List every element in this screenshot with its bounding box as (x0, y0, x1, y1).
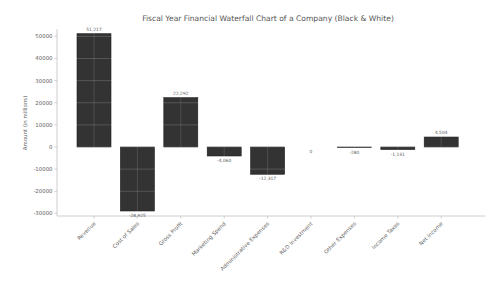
bar-value-label: -4,060 (217, 158, 231, 163)
x-tick-label-administrative-expenses: Administrative Expenses (219, 220, 271, 272)
bar-value-label: -1,131 (391, 152, 405, 157)
x-tick-label-other-expenses: Other Expenses (323, 220, 358, 255)
x-tick-label-cost-of-sales: Cost of Sales (111, 220, 140, 249)
y-tick-label: 40000 (35, 55, 53, 61)
y-tick-label: -10000 (33, 166, 53, 172)
bar-value-label: -280 (349, 150, 359, 155)
y-axis: 50000400003000020000100000-10000-20000-3… (33, 33, 57, 216)
bar-value-label: -12,317 (259, 176, 276, 181)
y-axis-label: Amount (in millions) (22, 96, 28, 151)
bar-value-label: 4,504 (435, 130, 448, 135)
x-axis: RevenueCost of SalesGross ProfitMarketin… (76, 216, 445, 273)
x-tick-label-r-d-investment: R&D Investment (278, 220, 314, 256)
y-tick-label: 30000 (35, 78, 53, 84)
y-tick-label: 10000 (35, 122, 53, 128)
y-tick-label: 20000 (35, 100, 53, 106)
bar-value-label: -28,925 (129, 213, 146, 218)
x-tick-label-revenue: Revenue (76, 220, 97, 241)
x-tick-label-marketing-spend: Marketing Spend (190, 220, 227, 257)
x-tick-label-gross-profit: Gross Profit (157, 220, 183, 246)
y-tick-label: -30000 (33, 210, 53, 216)
figure: Fiscal Year Financial Waterfall Chart of… (0, 0, 499, 283)
x-tick-label-net-income: Net Income (418, 220, 445, 247)
y-tick-label: -20000 (33, 188, 53, 194)
chart-title: Fiscal Year Financial Waterfall Chart of… (142, 14, 394, 23)
y-tick-label: 50000 (35, 33, 53, 39)
bar-value-label: 0 (310, 149, 313, 154)
waterfall-chart: Fiscal Year Financial Waterfall Chart of… (0, 0, 499, 283)
y-tick-label: 0 (49, 144, 53, 150)
bar-value-label: 51,217 (86, 27, 102, 32)
bar-value-label: 22,292 (173, 91, 189, 96)
x-tick-label-income-taxes: Income Taxes (371, 220, 401, 250)
